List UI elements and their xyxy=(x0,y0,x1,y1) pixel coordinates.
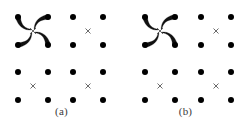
lattice-dot-r0-c2 xyxy=(70,14,76,20)
cross-top-left xyxy=(157,28,163,34)
cross-bottom-right xyxy=(86,84,91,89)
lattice-dot-r2-c3 xyxy=(228,69,234,75)
panel-a: (a) xyxy=(0,0,123,128)
lattice-dot-r3-c0 xyxy=(15,97,21,103)
lattice-dot-r3-c3 xyxy=(100,97,106,103)
lattice-dot-r2-c2 xyxy=(70,69,76,75)
lattice-dot-r0-c3 xyxy=(228,14,234,20)
lattice-dot-r3-c1 xyxy=(45,97,51,103)
lattice-diagram-a xyxy=(0,0,123,110)
lattice-dot-r1-c2 xyxy=(70,42,76,48)
lattice-dot-r1-c1 xyxy=(45,42,51,48)
lattice-dot-r2-c1 xyxy=(172,69,178,75)
lattice-dot-r1-c2 xyxy=(198,42,204,48)
cross-top-right xyxy=(214,29,219,34)
lattice-dot-r3-c1 xyxy=(172,97,178,103)
lattice-dot-r1-c3 xyxy=(228,42,234,48)
cross-top-right xyxy=(86,29,91,34)
panel-b-label: (b) xyxy=(124,104,247,118)
cross-bottom-left xyxy=(158,84,163,89)
lattice-dot-r1-c1 xyxy=(172,42,178,48)
lattice-dot-r1-c0 xyxy=(142,42,148,48)
lattice-dot-r0-c3 xyxy=(100,14,106,20)
lattice-dot-r2-c0 xyxy=(15,69,21,75)
lattice-dot-r3-c2 xyxy=(198,97,204,103)
figure-root: (a) (b) xyxy=(0,0,247,128)
panel-a-label: (a) xyxy=(0,104,123,118)
lattice-dot-r3-c3 xyxy=(228,97,234,103)
lattice-dot-r1-c3 xyxy=(100,42,106,48)
panel-b: (b) xyxy=(124,0,247,128)
lattice-dot-r1-c0 xyxy=(15,42,21,48)
cross-top-left xyxy=(30,28,36,34)
lattice-dot-r3-c2 xyxy=(70,97,76,103)
lattice-dot-r2-c2 xyxy=(198,69,204,75)
lattice-diagram-b xyxy=(124,0,247,110)
lattice-dot-r2-c1 xyxy=(45,69,51,75)
lattice-dot-r3-c0 xyxy=(142,97,148,103)
lattice-dot-r0-c0 xyxy=(142,14,148,20)
lattice-dot-r0-c1 xyxy=(172,14,178,20)
cross-bottom-left xyxy=(31,84,36,89)
lattice-dot-r2-c0 xyxy=(142,69,148,75)
lattice-dot-r0-c0 xyxy=(15,14,21,20)
lattice-dot-r0-c2 xyxy=(198,14,204,20)
lattice-dot-r2-c3 xyxy=(100,69,106,75)
lattice-dot-r0-c1 xyxy=(45,14,51,20)
cross-bottom-right xyxy=(214,84,219,89)
